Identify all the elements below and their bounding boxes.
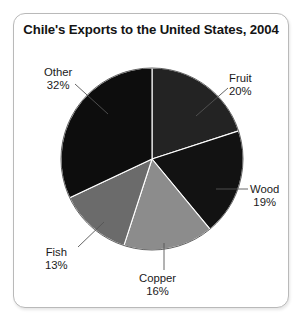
pie-label-fish-name: Fish — [46, 246, 67, 258]
pie-label-fruit-name: Fruit — [229, 72, 252, 84]
pie-label-copper-name: Copper — [139, 272, 176, 284]
pie-label-wood-percent: 19% — [250, 196, 279, 209]
pie-label-fish-percent: 13% — [45, 259, 68, 272]
pie-label-fruit: Fruit 20% — [229, 72, 252, 99]
pie-slice-group — [61, 68, 243, 250]
pie-label-other-percent: 32% — [44, 79, 72, 92]
pie-label-wood: Wood 19% — [250, 183, 279, 210]
pie-label-other-name: Other — [44, 66, 72, 78]
pie-label-wood-name: Wood — [250, 183, 279, 195]
pie-label-copper-percent: 16% — [139, 285, 176, 298]
chart-figure: Chile's Exports to the United States, 20… — [0, 0, 304, 324]
pie-label-fish: Fish 13% — [45, 246, 68, 273]
pie-label-copper: Copper 16% — [139, 272, 176, 299]
pie-label-fruit-percent: 20% — [229, 85, 252, 98]
pie-label-other: Other 32% — [44, 66, 72, 93]
